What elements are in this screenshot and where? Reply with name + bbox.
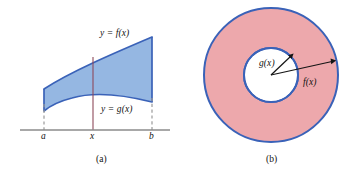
label-y-equals-g-of-x: y = g(x) bbox=[101, 105, 132, 115]
panel-b-graphic bbox=[174, 0, 348, 173]
label-y-equals-f-of-x: y = f(x) bbox=[100, 29, 129, 39]
label-f-of-x-outer-radius: f(x) bbox=[303, 78, 317, 88]
panel-a-region-between-curves: y = f(x) y = g(x) a x b (a) bbox=[0, 0, 174, 173]
label-g-of-x-text: g(x) bbox=[259, 58, 275, 68]
label-f-of-x-text: f(x) bbox=[303, 77, 317, 87]
panel-b-caption: (b) bbox=[266, 155, 277, 165]
panel-a-caption: (a) bbox=[96, 155, 107, 165]
axis-tick-label-a: a bbox=[41, 132, 46, 142]
axis-tick-label-b: b bbox=[149, 132, 154, 142]
panel-b-annulus-washer: g(x) f(x) (b) bbox=[174, 0, 348, 173]
label-y-equals-g-of-x-text: y = g(x) bbox=[101, 104, 132, 114]
label-g-of-x-inner-radius: g(x) bbox=[259, 59, 275, 69]
panel-a-graphic bbox=[0, 0, 174, 173]
shaded-region-between-curves bbox=[44, 37, 152, 111]
axis-tick-label-x: x bbox=[90, 132, 94, 142]
label-y-equals-f-of-x-text: y = f(x) bbox=[100, 28, 129, 38]
figure-container: y = f(x) y = g(x) a x b (a) bbox=[0, 0, 348, 173]
